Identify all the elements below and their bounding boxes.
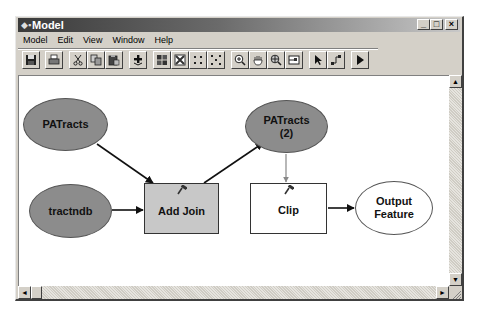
save-icon: [25, 54, 37, 66]
paste-button[interactable]: [105, 51, 123, 69]
overview-window-icon: [288, 54, 300, 66]
resize-grip[interactable]: [449, 286, 462, 299]
zoom-out-dots-icon: [210, 54, 222, 66]
resize-grip-icon: [449, 287, 462, 300]
arrow-pointer-icon: [312, 54, 324, 66]
full-extent-button[interactable]: [153, 51, 171, 69]
scroll-down-button[interactable]: ▼: [449, 273, 462, 286]
node-label: tractndb: [49, 205, 93, 218]
node-label: Add Join: [158, 205, 205, 218]
menu-window[interactable]: Window: [107, 33, 149, 47]
copy-button[interactable]: [87, 51, 105, 69]
printer-icon: [48, 54, 60, 66]
scroll-up-button[interactable]: ▲: [449, 75, 462, 88]
node-label: Output Feature: [374, 195, 414, 221]
zoom-in-icon: [234, 54, 246, 66]
run-button[interactable]: [351, 51, 369, 69]
hammer-icon: [284, 185, 294, 195]
node-tractndb[interactable]: tractndb: [29, 184, 112, 238]
vertical-scrollbar[interactable]: ▲ ▼: [449, 75, 462, 286]
maximize-button[interactable]: □: [430, 19, 443, 30]
node-label: PATracts: [42, 118, 88, 131]
zoom-extent-icon: [270, 54, 282, 66]
paste-icon: [108, 54, 120, 66]
horizontal-scroll-thumb[interactable]: [31, 286, 42, 299]
node-add-join[interactable]: Add Join: [144, 183, 219, 234]
connect-icon: [330, 54, 342, 66]
node-label: PATracts (2): [263, 114, 309, 140]
node-patracts[interactable]: PATracts: [23, 98, 108, 151]
plus-icon: [132, 54, 144, 66]
edge-addjoin-patracts2: [204, 143, 263, 183]
window-controls: _ □ ×: [417, 19, 458, 30]
scissors-icon: [72, 54, 84, 66]
node-clip[interactable]: Clip: [250, 183, 327, 234]
menu-edit[interactable]: Edit: [53, 33, 79, 47]
close-button[interactable]: ×: [445, 19, 458, 30]
edge-patracts-addjoin: [97, 144, 153, 183]
toolbar: [19, 51, 459, 73]
scroll-right-button[interactable]: ►: [436, 286, 449, 299]
window-title: Model: [32, 18, 64, 32]
minimize-button[interactable]: _: [417, 19, 430, 30]
menu-model[interactable]: Model: [18, 33, 53, 47]
fixed-zoom-out-button[interactable]: [207, 51, 225, 69]
hammer-icon: [177, 185, 187, 195]
model-window: ◆▪ Model _ □ × Model Edit View Window He…: [15, 16, 464, 301]
menu-separator: [18, 48, 378, 50]
grid-icon: [156, 54, 168, 66]
horizontal-scrollbar[interactable]: ◄ ►: [18, 286, 449, 299]
zoom-full-button[interactable]: [267, 51, 285, 69]
node-patracts-2[interactable]: PATracts (2): [245, 100, 328, 153]
scroll-left-button[interactable]: ◄: [18, 286, 31, 299]
fit-icon: [174, 54, 186, 66]
select-button[interactable]: [309, 51, 327, 69]
node-output-feature[interactable]: Output Feature: [355, 181, 433, 235]
menu-view[interactable]: View: [78, 33, 107, 47]
title-bar[interactable]: ◆▪ Model _ □ ×: [18, 18, 460, 32]
node-label: Clip: [278, 204, 299, 217]
model-canvas[interactable]: PATracts tractndb Add Join PATracts (2) …: [18, 75, 449, 286]
menu-bar: Model Edit View Window Help: [18, 33, 178, 47]
zoom-in-button[interactable]: [231, 51, 249, 69]
add-data-button[interactable]: [129, 51, 147, 69]
save-button[interactable]: [22, 51, 40, 69]
print-button[interactable]: [45, 51, 63, 69]
overview-button[interactable]: [285, 51, 303, 69]
zoom-in-dots-icon: [192, 54, 204, 66]
hand-icon: [252, 54, 264, 66]
play-icon: [354, 54, 366, 66]
fixed-zoom-in-button[interactable]: [189, 51, 207, 69]
connect-button[interactable]: [327, 51, 345, 69]
cut-button[interactable]: [69, 51, 87, 69]
menu-help[interactable]: Help: [149, 33, 178, 47]
copy-icon: [90, 54, 102, 66]
zoom-to-selected-button[interactable]: [171, 51, 189, 69]
pan-button[interactable]: [249, 51, 267, 69]
